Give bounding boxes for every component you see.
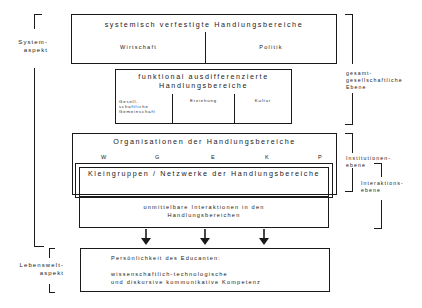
label-line: ebene xyxy=(361,187,404,194)
bracket-upper-line xyxy=(352,133,353,153)
label-line: gesellschaftliche xyxy=(346,77,403,84)
label-line: Institutionen- xyxy=(346,155,391,162)
bracket-upper-line xyxy=(352,14,353,64)
label-line: Ebene xyxy=(346,84,403,91)
label-line: Interaktions- xyxy=(361,180,404,187)
personality-box: Persönlichkeit des Educanten: wissenscha… xyxy=(80,248,330,292)
bracket-upper-line xyxy=(381,163,382,177)
arrow-down-icon xyxy=(259,229,269,245)
societal-level-label: gesamt- gesellschaftliche Ebene xyxy=(346,70,403,90)
competence-line-1: wissenschaftlich-technologische xyxy=(111,271,228,277)
arrow-down-icon xyxy=(200,229,210,245)
bracket-bottom-tick xyxy=(374,228,382,229)
institutional-level-label: Institutionen- ebene xyxy=(346,155,391,169)
personality-title: Persönlichkeit des Educanten: xyxy=(111,255,221,261)
arrow-down-icon xyxy=(141,229,151,245)
label-line: gesamt- xyxy=(346,70,403,77)
bracket-bottom-tick xyxy=(345,124,353,125)
bracket-bottom-tick xyxy=(345,191,353,192)
interaction-level-label: Interaktions- ebene xyxy=(361,180,404,194)
bracket-lower-line xyxy=(352,168,353,192)
label-line: ebene xyxy=(346,162,391,169)
competence-line-2: und diskursive kommunikative Kompetenz xyxy=(111,279,261,285)
bracket-lower-line xyxy=(352,93,353,125)
bracket-lower-line xyxy=(381,200,382,229)
